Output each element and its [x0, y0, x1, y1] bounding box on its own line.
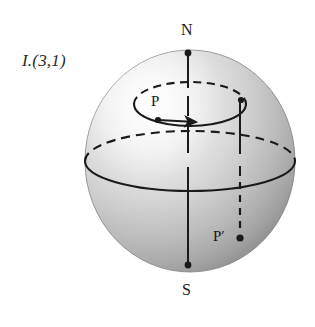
south-pole-dot: [185, 262, 192, 269]
latitude-right-dot: [238, 97, 244, 103]
north-pole-dot: [185, 50, 192, 57]
figure-caption-label: I.(3,1): [22, 52, 66, 69]
sphere-highlight: [85, 50, 295, 272]
sphere-figure: I.(3,1) N S P P′: [0, 0, 315, 327]
sphere-diagram-svg: [0, 0, 315, 327]
south-pole-label: S: [182, 282, 191, 298]
point-p-prime-dot: [236, 234, 243, 241]
north-pole-label: N: [181, 22, 193, 38]
point-p-prime-label: P′: [213, 229, 225, 244]
point-p-label: P: [151, 94, 159, 109]
point-p-dot: [155, 117, 161, 123]
